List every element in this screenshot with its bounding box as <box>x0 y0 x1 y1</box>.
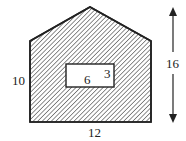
hole-width-label: 6 <box>84 72 91 87</box>
house-shape-diagram: 10 12 16 6 3 <box>0 0 186 141</box>
hole-height-label: 3 <box>104 66 111 81</box>
height-label: 16 <box>166 56 180 71</box>
bottom-label: 12 <box>88 125 101 140</box>
left-side-label: 10 <box>12 73 25 88</box>
